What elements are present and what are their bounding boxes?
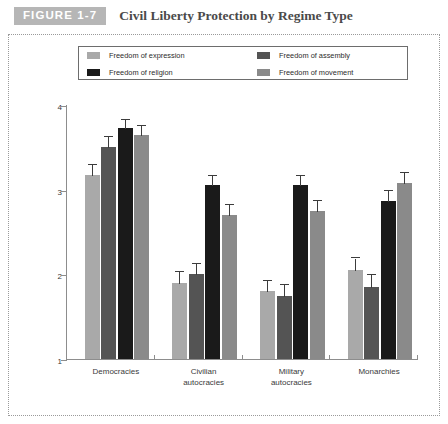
error-bar-cap [351, 257, 360, 258]
bar [277, 296, 292, 360]
plot-area [66, 105, 418, 360]
error-bar [355, 259, 356, 272]
x-axis-label-line: autocracies [271, 377, 312, 388]
legend-swatch-expression [87, 52, 100, 59]
error-bar [229, 205, 230, 216]
error-bar [141, 126, 142, 136]
error-bar-cap [280, 284, 289, 285]
x-axis-label: Civilianautocracies [183, 366, 224, 388]
error-bar [212, 176, 213, 187]
error-bar-cap [225, 204, 234, 205]
error-bar-cap [192, 263, 201, 264]
error-bar-cap [88, 164, 97, 165]
y-axis-tick-labels: 1234 [40, 105, 62, 360]
bar [222, 215, 237, 359]
legend-item-assembly: Freedom of assembly [257, 51, 417, 60]
figure-title: Civil Liberty Protection by Regime Type [119, 8, 353, 24]
y-tick-label-4: 4 [58, 103, 62, 112]
legend-item-expression: Freedom of expression [87, 51, 257, 60]
error-bar-cap [296, 175, 305, 176]
error-bar-cap [400, 172, 409, 173]
legend-swatch-religion [87, 69, 100, 76]
error-bar [108, 137, 109, 148]
legend-label-expression: Freedom of expression [109, 51, 185, 60]
error-bar [371, 275, 372, 288]
y-tick-label-1: 1 [58, 357, 62, 366]
figure-header: FIGURE 1-7 Civil Liberty Protection by R… [0, 0, 448, 32]
bar [310, 211, 325, 359]
bar-group [348, 105, 413, 359]
legend-swatch-movement [257, 69, 270, 76]
error-bar-cap [104, 136, 113, 137]
bar [293, 185, 308, 359]
x-axis-label-line: autocracies [183, 377, 224, 388]
error-bar [317, 201, 318, 212]
legend-swatch-assembly [257, 52, 270, 59]
figure-number-badge: FIGURE 1-7 [14, 7, 106, 26]
legend-item-movement: Freedom of movement [257, 68, 417, 77]
error-bar [92, 165, 93, 176]
legend-label-assembly: Freedom of assembly [279, 51, 350, 60]
error-bar-cap [313, 200, 322, 201]
x-axis-label: Militaryautocracies [271, 366, 312, 388]
error-bar-cap [137, 125, 146, 126]
bar-group [260, 105, 325, 359]
bar [364, 287, 379, 359]
bar [381, 201, 396, 359]
error-bar [125, 120, 126, 129]
bar [260, 291, 275, 359]
error-bar [196, 264, 197, 276]
error-bar [179, 272, 180, 284]
error-bar [388, 191, 389, 202]
error-bar [300, 176, 301, 187]
legend-label-movement: Freedom of movement [279, 68, 353, 77]
bar-group [172, 105, 237, 359]
x-axis-label-line: Monarchies [358, 366, 399, 377]
error-bar [267, 281, 268, 293]
error-bar-cap [121, 119, 130, 120]
bar [348, 270, 363, 359]
error-bar [404, 173, 405, 184]
error-bar-cap [384, 190, 393, 191]
bar [118, 128, 133, 359]
y-tick-label-3: 3 [58, 187, 62, 196]
x-axis-label: Monarchies [358, 366, 399, 377]
x-axis-label-line: Democracies [93, 366, 140, 377]
bar [101, 147, 116, 359]
x-axis-label-line: Civilian [183, 366, 224, 377]
x-axis-label: Democracies [93, 366, 140, 377]
bars-layer [67, 105, 418, 359]
bar [189, 274, 204, 359]
y-tick-1 [61, 360, 67, 361]
error-bar-cap [208, 175, 217, 176]
bar [397, 183, 412, 359]
bar [134, 135, 149, 359]
bar [85, 175, 100, 359]
bar-group [85, 105, 150, 359]
error-bar-cap [175, 271, 184, 272]
error-bar-cap [263, 280, 272, 281]
x-axis-label-line: Military [271, 366, 312, 377]
y-tick-label-2: 2 [58, 272, 62, 281]
legend-item-religion: Freedom of religion [87, 68, 257, 77]
bar [172, 283, 187, 359]
figure-container: FIGURE 1-7 Civil Liberty Protection by R… [0, 0, 448, 424]
error-bar [284, 285, 285, 297]
chart-legend: Freedom of expression Freedom of assembl… [78, 46, 408, 80]
legend-label-religion: Freedom of religion [109, 68, 173, 77]
error-bar-cap [367, 274, 376, 275]
bar [205, 185, 220, 359]
